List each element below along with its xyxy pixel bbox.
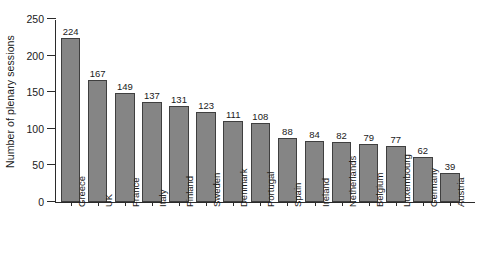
y-tick: 50 <box>47 164 56 165</box>
bar-value-label: 84 <box>309 129 320 140</box>
x-axis-label: Finland <box>183 176 197 207</box>
x-tick <box>233 202 234 206</box>
bar-value-label: 131 <box>171 94 187 105</box>
y-tick: 250 <box>47 18 56 19</box>
x-tick <box>179 202 180 206</box>
x-axis-label: Greece <box>75 176 89 207</box>
x-axis-label: France <box>129 177 143 207</box>
bar-value-label: 77 <box>390 134 401 145</box>
y-tick: 150 <box>47 91 56 92</box>
x-tick <box>287 202 288 206</box>
x-axis-label: Sweden <box>210 173 224 207</box>
x-tick <box>396 202 397 206</box>
y-axis-title: Number of plenary sessions <box>2 0 18 203</box>
x-tick <box>152 202 153 206</box>
x-tick <box>315 202 316 206</box>
bar-value-label: 123 <box>198 100 214 111</box>
bar-value-label: 111 <box>226 109 240 120</box>
y-tick-label: 200 <box>26 48 44 64</box>
bar-value-label: 88 <box>282 126 293 137</box>
x-axis-label: Netherlands <box>346 156 360 207</box>
bar-value-label: 108 <box>252 111 268 122</box>
y-tick: 200 <box>47 55 56 56</box>
y-tick: 0 <box>47 201 56 202</box>
bar-value-label: 224 <box>63 26 79 37</box>
y-tick-label: 100 <box>26 121 44 137</box>
bar-value-label: 62 <box>418 145 429 156</box>
x-axis-label: Italy <box>156 190 170 207</box>
y-tick-label: 50 <box>32 157 44 173</box>
bar <box>142 102 162 202</box>
x-axis-label: Denmark <box>237 168 251 207</box>
bar-group: 88 <box>278 19 298 202</box>
bar-group: 84 <box>305 19 325 202</box>
y-tick-label: 0 <box>38 194 44 210</box>
x-axis-labels: GreeceUKFranceItalyFinlandSwedenDenmarkP… <box>55 207 475 277</box>
bar-chart: Number of plenary sessions 0501001502002… <box>0 0 481 277</box>
bar-group: 224 <box>61 19 81 202</box>
x-tick <box>260 202 261 206</box>
bar-value-label: 39 <box>445 161 456 172</box>
x-axis-label: Germany <box>427 168 441 207</box>
bar-value-label: 79 <box>363 132 374 143</box>
bar-value-label: 149 <box>117 81 133 92</box>
bar <box>88 80 108 202</box>
x-tick <box>206 202 207 206</box>
x-tick <box>423 202 424 206</box>
x-tick <box>125 202 126 206</box>
x-axis-label: Portugal <box>264 172 278 207</box>
x-axis-label: Spain <box>291 183 305 207</box>
bar-group: 167 <box>88 19 108 202</box>
x-axis-label: UK <box>102 194 116 207</box>
x-axis-label: Belgium <box>373 173 387 207</box>
y-tick: 100 <box>47 128 56 129</box>
bar-group: 149 <box>115 19 135 202</box>
bar-group: 137 <box>142 19 162 202</box>
x-tick <box>98 202 99 206</box>
bar-group: 131 <box>169 19 189 202</box>
x-axis-label: Austria <box>454 177 468 207</box>
bar-value-label: 167 <box>90 68 106 79</box>
bar-value-label: 82 <box>336 130 347 141</box>
x-tick <box>342 202 343 206</box>
x-axis-label: Luxembourg <box>400 154 414 207</box>
bar-group: 39 <box>440 19 460 202</box>
y-tick-label: 150 <box>26 84 44 100</box>
x-tick <box>369 202 370 206</box>
bar-value-label: 137 <box>144 90 160 101</box>
x-tick <box>71 202 72 206</box>
y-tick-label: 250 <box>26 11 44 27</box>
x-tick <box>450 202 451 206</box>
x-axis-label: Ireland <box>319 178 333 207</box>
